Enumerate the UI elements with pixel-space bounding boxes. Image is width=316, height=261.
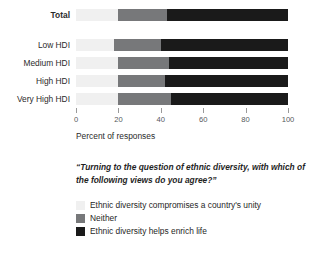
x-axis: 020406080100 <box>0 108 316 138</box>
stacked-bar-chart: Total Low HDI Medium HDI <box>0 0 316 261</box>
legend-swatch-neither <box>76 214 85 223</box>
bar-segment-enrich <box>161 39 288 51</box>
bar-row-very-high-hdi: Very High HDI <box>0 92 316 106</box>
x-axis-tick <box>118 108 119 113</box>
bar-segment-compromises <box>76 57 118 69</box>
chart-caption: “Turning to the question of ethnic diver… <box>76 161 308 186</box>
legend-swatch-compromises <box>76 201 85 210</box>
bar-segment-compromises <box>76 75 118 87</box>
stacked-bar-low-hdi[interactable] <box>76 39 288 51</box>
x-axis-tick <box>203 108 204 113</box>
category-label-total: Total <box>0 8 70 22</box>
x-axis-tick-label: 80 <box>241 115 249 124</box>
legend-label-compromises: Ethnic diversity compromises a country's… <box>90 199 261 212</box>
plot-area: Total Low HDI Medium HDI <box>0 0 316 124</box>
legend: Ethnic diversity compromises a country's… <box>76 199 311 238</box>
x-axis-tick <box>76 108 77 113</box>
legend-label-enrich: Ethnic diversity helps enrich life <box>90 225 207 238</box>
category-label-high-hdi: High HDI <box>0 74 70 88</box>
x-axis-tick <box>246 108 247 113</box>
bar-row-total: Total <box>0 8 316 22</box>
stacked-bar-high-hdi[interactable] <box>76 75 288 87</box>
bar-segment-enrich <box>171 93 288 105</box>
x-axis-title: Percent of responses <box>76 131 155 141</box>
bar-segment-neither <box>114 39 161 51</box>
x-axis-tick <box>161 108 162 113</box>
x-axis-tick-label: 0 <box>74 115 78 124</box>
bar-segment-neither <box>118 93 171 105</box>
bar-segment-compromises <box>76 39 114 51</box>
bar-segment-enrich <box>167 9 288 21</box>
legend-item-compromises[interactable]: Ethnic diversity compromises a country's… <box>76 199 311 212</box>
bar-row-high-hdi: High HDI <box>0 74 316 88</box>
bar-row-medium-hdi: Medium HDI <box>0 56 316 70</box>
category-label-medium-hdi: Medium HDI <box>0 56 70 70</box>
bar-segment-neither <box>118 75 165 87</box>
bar-segment-enrich <box>165 75 288 87</box>
stacked-bar-medium-hdi[interactable] <box>76 57 288 69</box>
x-axis-tick-label: 40 <box>157 115 165 124</box>
legend-item-neither[interactable]: Neither <box>76 212 311 225</box>
bar-segment-neither <box>118 57 169 69</box>
x-axis-tick-label: 100 <box>282 115 295 124</box>
bar-segment-compromises <box>76 93 118 105</box>
bar-segment-enrich <box>169 57 288 69</box>
bar-segment-neither <box>118 9 167 21</box>
bar-segment-compromises <box>76 9 118 21</box>
legend-swatch-enrich <box>76 227 85 236</box>
legend-label-neither: Neither <box>90 212 117 225</box>
x-axis-tick <box>288 108 289 113</box>
stacked-bar-very-high-hdi[interactable] <box>76 93 288 105</box>
category-label-low-hdi: Low HDI <box>0 38 70 52</box>
legend-item-enrich[interactable]: Ethnic diversity helps enrich life <box>76 225 311 238</box>
category-label-very-high-hdi: Very High HDI <box>0 92 70 106</box>
bar-row-low-hdi: Low HDI <box>0 38 316 52</box>
x-axis-tick-label: 20 <box>114 115 122 124</box>
x-axis-tick-label: 60 <box>199 115 207 124</box>
stacked-bar-total[interactable] <box>76 9 288 21</box>
